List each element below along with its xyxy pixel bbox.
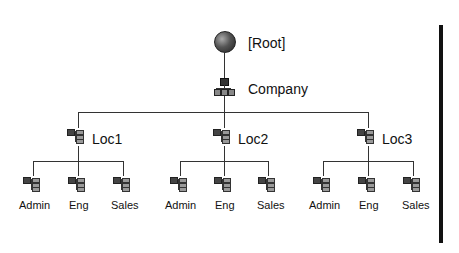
- organizational-unit-icon: [313, 176, 329, 192]
- root-label: [Root]: [248, 35, 285, 51]
- ou-label: Sales: [402, 199, 430, 211]
- organizational-unit-icon: [170, 176, 186, 192]
- organizational-unit-icon: [357, 128, 373, 144]
- connector-line: [413, 161, 414, 176]
- ou-label: Sales: [111, 199, 139, 211]
- ou-label: Eng: [359, 199, 379, 211]
- connector-line: [268, 161, 269, 176]
- company-label: Company: [248, 81, 308, 97]
- organizational-unit-icon: [68, 176, 84, 192]
- ou-label: Admin: [165, 199, 196, 211]
- organizational-unit-icon: [113, 176, 129, 192]
- loc1-label: Loc1: [92, 131, 122, 147]
- connector-line: [224, 112, 225, 128]
- connector-line: [368, 146, 369, 161]
- connector-line: [33, 161, 34, 176]
- connector-line: [123, 161, 124, 176]
- organizational-unit-icon: [213, 128, 229, 144]
- connector-line: [368, 161, 369, 176]
- connector-line: [368, 112, 369, 128]
- organization-icon: [214, 78, 234, 96]
- connector-line: [78, 161, 79, 176]
- connector-line: [224, 96, 225, 112]
- connector-line: [224, 161, 225, 176]
- ou-label: Sales: [257, 199, 285, 211]
- ou-label: Eng: [69, 199, 89, 211]
- organizational-unit-icon: [403, 176, 419, 192]
- ou-label: Admin: [309, 199, 340, 211]
- connector-line: [224, 52, 225, 78]
- connector-line: [180, 161, 181, 176]
- connector-line: [78, 112, 79, 128]
- connector-line: [224, 146, 225, 161]
- organizational-unit-icon: [214, 176, 230, 192]
- organizational-unit-icon: [67, 128, 83, 144]
- organizational-unit-icon: [358, 176, 374, 192]
- ou-label: Admin: [19, 199, 50, 211]
- loc2-label: Loc2: [238, 131, 268, 147]
- loc3-label: Loc3: [382, 131, 412, 147]
- organizational-unit-icon: [23, 176, 39, 192]
- connector-line: [78, 146, 79, 161]
- connector-line: [323, 161, 324, 176]
- vertical-divider-bar: [439, 25, 443, 243]
- organizational-unit-icon: [258, 176, 274, 192]
- ou-label: Eng: [215, 199, 235, 211]
- globe-icon: [214, 31, 236, 53]
